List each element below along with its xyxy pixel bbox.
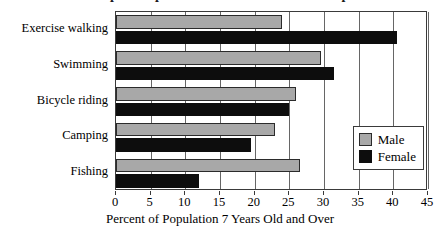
bar-male-4	[116, 159, 300, 173]
bar-female-4	[116, 174, 199, 188]
category-axis-labels: Exercise walkingSwimmingBicycle ridingCa…	[0, 11, 112, 190]
x-axis-ticks: 051015202530354045	[115, 191, 427, 207]
chart-title: Most Popular Sports and Recreational Par…	[0, 0, 440, 3]
x-tick-label-0: 0	[100, 195, 130, 209]
bar-male-0	[116, 15, 282, 29]
bar-female-0	[116, 31, 397, 45]
category-label-4: Fishing	[0, 165, 108, 178]
bar-female-3	[116, 138, 251, 152]
x-tick-label-1: 5	[135, 195, 165, 209]
category-label-2: Bicycle riding	[0, 94, 108, 107]
bar-female-2	[116, 103, 289, 117]
x-tick-label-3: 15	[204, 195, 234, 209]
bar-chart: Most Popular Sports and Recreational Par…	[0, 0, 440, 233]
bar-male-2	[116, 87, 296, 101]
x-tick-label-7: 35	[343, 195, 373, 209]
category-label-0: Exercise walking	[0, 22, 108, 35]
x-tick-label-8: 40	[377, 195, 407, 209]
legend-swatch-male-icon	[359, 133, 372, 146]
bar-male-3	[116, 123, 275, 137]
category-label-1: Swimming	[0, 58, 108, 71]
gridline	[428, 12, 429, 189]
legend-item-female: Female	[359, 148, 416, 165]
x-tick-label-2: 10	[169, 195, 199, 209]
category-label-3: Camping	[0, 129, 108, 142]
x-tick-label-4: 20	[239, 195, 269, 209]
x-tick-label-9: 45	[412, 195, 440, 209]
x-tick-label-5: 25	[273, 195, 303, 209]
legend-label-male: Male	[378, 133, 405, 147]
x-axis-title: Percent of Population 7 Years Old and Ov…	[0, 211, 440, 227]
x-tick-label-6: 30	[308, 195, 338, 209]
legend: MaleFemale	[353, 126, 424, 170]
bar-male-1	[116, 51, 321, 65]
legend-item-male: Male	[359, 131, 416, 148]
legend-swatch-female-icon	[359, 150, 372, 163]
legend-label-female: Female	[378, 150, 416, 164]
bar-female-1	[116, 67, 334, 81]
